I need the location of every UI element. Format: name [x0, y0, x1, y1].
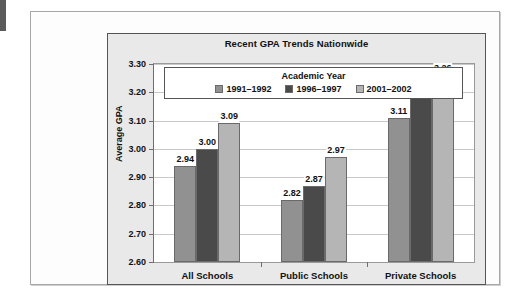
- bar-value-label: 3.09: [220, 111, 240, 122]
- legend-title: Academic Year: [165, 71, 462, 81]
- x-axis-category-label: Public Schools: [280, 270, 348, 281]
- legend: Academic Year 1991–19921996–19972001–200…: [164, 67, 463, 99]
- chart-panel: Recent GPA Trends Nationwide Average GPA…: [107, 33, 486, 285]
- bar: [196, 149, 218, 262]
- legend-item[interactable]: 2001–2002: [356, 84, 412, 94]
- legend-items: 1991–19921996–19972001–2002: [165, 84, 462, 94]
- y-axis-tick: [149, 92, 154, 93]
- y-axis-title: Average GPA: [114, 105, 124, 162]
- y-axis-tick-label: 2.70: [128, 229, 146, 239]
- legend-item-label: 2001–2002: [367, 84, 412, 94]
- left-edge-tab: [0, 0, 6, 31]
- bar-value-label: 2.87: [304, 174, 324, 185]
- chart-title: Recent GPA Trends Nationwide: [108, 38, 485, 49]
- bar: [281, 200, 303, 262]
- bar-value-label: 2.94: [176, 154, 196, 165]
- y-axis-tick-label: 2.60: [128, 257, 146, 267]
- bar-value-label: 3.00: [198, 137, 218, 148]
- bar-value-label: 2.97: [326, 145, 346, 156]
- y-axis-tick-label: 3.30: [128, 59, 146, 69]
- y-axis-tick-label: 3.00: [128, 144, 146, 154]
- page-frame: Recent GPA Trends Nationwide Average GPA…: [30, 11, 500, 285]
- y-axis-tick: [149, 64, 154, 65]
- legend-item[interactable]: 1991–1992: [215, 84, 271, 94]
- y-axis-tick-label: 3.10: [128, 116, 146, 126]
- legend-item[interactable]: 1996–1997: [285, 84, 341, 94]
- bar-value-label: 2.82: [282, 188, 302, 199]
- y-axis-tick-label: 3.20: [128, 87, 146, 97]
- y-axis-tick-label: 2.90: [128, 172, 146, 182]
- bar-value-label: 3.11: [389, 106, 408, 117]
- y-axis-tick-label: 2.80: [128, 200, 146, 210]
- bar: [410, 95, 432, 262]
- legend-swatch-icon: [285, 85, 293, 93]
- y-axis-tick: [149, 234, 154, 235]
- x-axis-tick: [261, 262, 262, 267]
- bar: [432, 75, 454, 262]
- x-axis-category-label: All Schools: [181, 270, 233, 281]
- legend-item-label: 1991–1992: [226, 84, 271, 94]
- y-axis-tick: [149, 121, 154, 122]
- gridline: [154, 64, 474, 65]
- legend-swatch-icon: [356, 85, 364, 93]
- bar: [218, 123, 240, 262]
- bar: [303, 186, 325, 262]
- y-axis-tick: [149, 149, 154, 150]
- x-axis-tick: [367, 262, 368, 267]
- y-axis-tick: [149, 177, 154, 178]
- y-axis-tick: [149, 205, 154, 206]
- legend-item-label: 1996–1997: [296, 84, 341, 94]
- x-axis-category-label: Private Schools: [385, 270, 456, 281]
- legend-swatch-icon: [215, 85, 223, 93]
- bar: [325, 157, 347, 262]
- y-axis-tick: [149, 262, 154, 263]
- bar: [174, 166, 196, 262]
- bar: [388, 118, 410, 262]
